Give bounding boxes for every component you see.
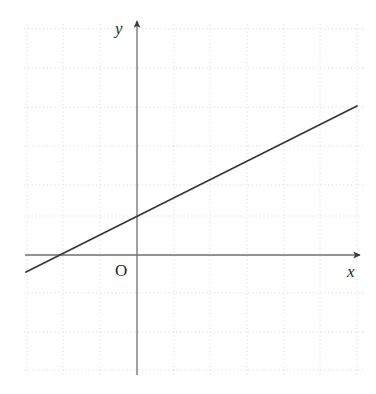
grid-vertical-lines (27, 24, 357, 376)
x-axis-label: x (347, 263, 355, 280)
figure-canvas: y x O (0, 0, 376, 394)
coordinate-plot (0, 0, 376, 394)
plotted-line (26, 106, 357, 272)
origin-label: O (115, 262, 127, 279)
grid-horizontal-lines (24, 29, 366, 370)
y-axis-label: y (115, 20, 123, 37)
